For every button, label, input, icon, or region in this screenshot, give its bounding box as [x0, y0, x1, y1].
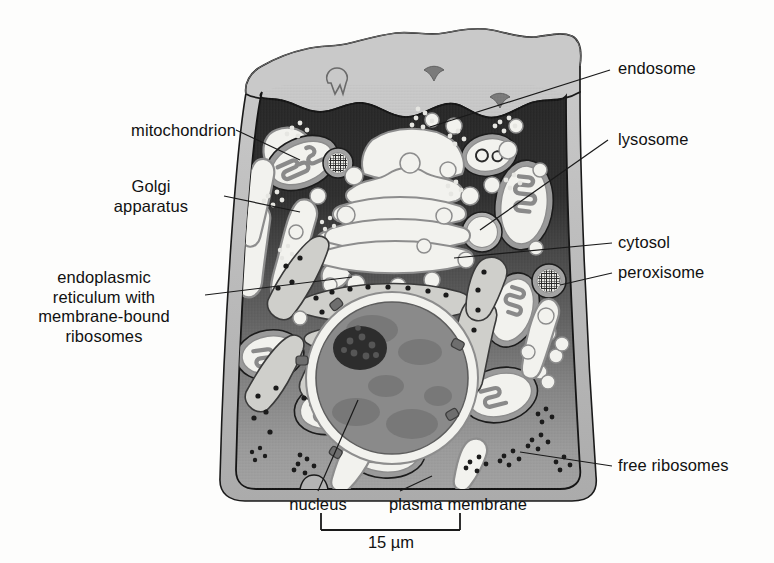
label-nucleus: nucleus: [258, 495, 378, 515]
figure-canvas: mitochondrion Golgi apparatus endoplasmi…: [0, 0, 774, 563]
label-free-ribosomes: free ribosomes: [618, 456, 729, 476]
label-golgi-apparatus: Golgi apparatus: [92, 177, 210, 216]
label-plasma-membrane: plasma membrane: [372, 495, 544, 515]
label-endosome: endosome: [618, 59, 696, 79]
label-mitochondrion: mitochondrion: [18, 121, 236, 141]
scale-bar-label: 15 µm: [330, 533, 452, 552]
scale-bar: [321, 513, 460, 530]
label-endoplasmic-reticulum: endoplasmic reticulum with membrane-boun…: [6, 268, 202, 346]
label-cytosol: cytosol: [618, 233, 670, 253]
label-peroxisome: peroxisome: [618, 263, 704, 283]
label-lysosome: lysosome: [618, 130, 689, 150]
